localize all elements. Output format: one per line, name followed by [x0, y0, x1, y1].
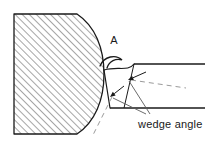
workpiece	[14, 14, 104, 134]
wedge-angle-label: wedge angle	[137, 118, 203, 130]
detail-marker-label: A	[110, 34, 118, 46]
diagram-canvas: A wedge angle	[0, 0, 220, 148]
workpiece-hatch-fill	[14, 14, 104, 134]
machining-diagram: A wedge angle	[0, 0, 220, 148]
